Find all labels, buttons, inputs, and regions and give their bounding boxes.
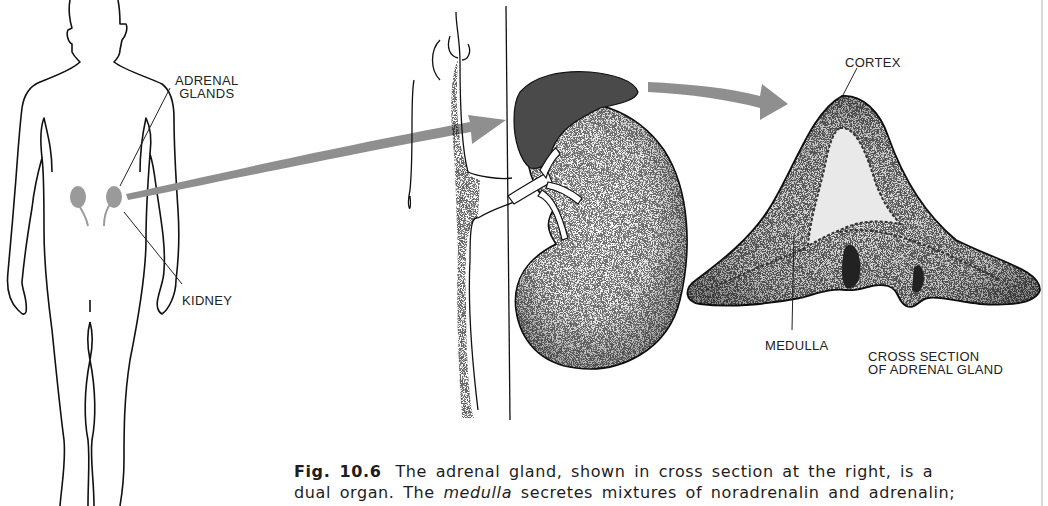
caption-line2-post: secretes mixtures of noradrenalin and ad…	[512, 483, 955, 502]
page-edge-divider	[1041, 0, 1043, 506]
label-medulla: MEDULLA	[765, 339, 829, 352]
label-cortex: CORTEX	[845, 56, 901, 69]
caption-medulla-emphasis: medulla	[443, 483, 512, 502]
arrow-to-kidney	[126, 115, 506, 200]
caption-line-1: Fig. 10.6The adrenal gland, shown in cro…	[294, 461, 1042, 482]
label-cross-section-line2: OF ADRENAL GLAND	[868, 363, 1003, 376]
label-kidney: KIDNEY	[182, 294, 232, 307]
caption-line2-pre: dual organ. The	[294, 483, 443, 502]
label-adrenal-line2: GLANDS	[175, 87, 239, 100]
human-body-outline	[7, 0, 178, 506]
label-adrenal-glands: ADRENAL GLANDS	[175, 74, 239, 100]
label-cross-section: CROSS SECTION OF ADRENAL GLAND	[868, 350, 1003, 376]
adrenal-cross-section	[687, 96, 1040, 307]
arrow-to-cross-section	[648, 82, 788, 120]
figure-caption: Fig. 10.6The adrenal gland, shown in cro…	[294, 461, 1042, 503]
caption-line1-text: The adrenal gland, shown in cross sectio…	[395, 462, 933, 481]
kidney-illustration	[508, 72, 687, 369]
figure-number: Fig. 10.6	[294, 462, 381, 481]
vessel-stipple	[451, 60, 480, 418]
body-kidneys	[70, 186, 122, 226]
caption-line-2: dual organ. The medulla secretes mixture…	[294, 482, 1042, 503]
figure-illustration	[0, 0, 1048, 506]
